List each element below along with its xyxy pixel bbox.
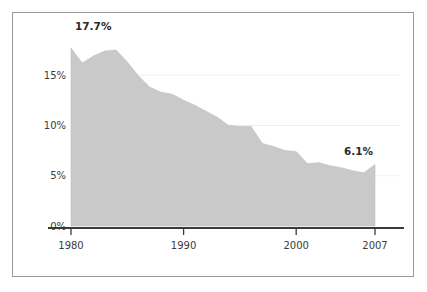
x-tick-label-1990: 1990 [171,240,196,251]
x-tick-label-2007: 2007 [362,240,387,251]
chart-figure: 1980199020002007 0%5%10%15% 17.7%6.1% [0,0,427,292]
annotation-177: 17.7% [75,20,112,32]
x-axis-tick-labels: 1980199020002007 [58,240,387,251]
y-tick-label-5pct: 5% [50,170,66,181]
x-tick-label-2000: 2000 [283,240,308,251]
annotation-61: 6.1% [344,145,374,157]
y-tick-label-10pct: 10% [44,120,66,131]
x-axis-ticks [71,228,375,235]
y-tick-label-0pct: 0% [50,221,66,232]
y-axis-tick-labels: 0%5%10%15% [44,70,66,232]
area-chart: 1980199020002007 0%5%10%15% 17.7%6.1% [0,0,427,292]
x-tick-label-1980: 1980 [58,240,83,251]
y-tick-label-15pct: 15% [44,70,66,81]
